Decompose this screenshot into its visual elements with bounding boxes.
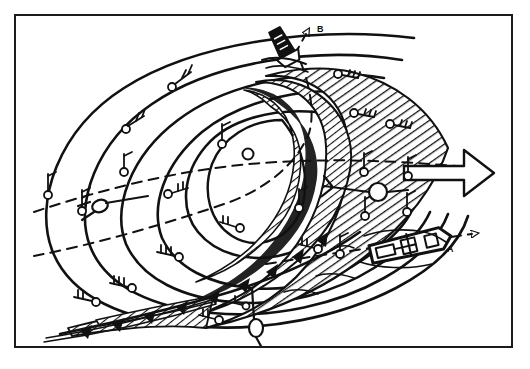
wind-barb xyxy=(164,182,188,198)
aircraft-symbol xyxy=(78,196,148,220)
aircraft-symbol xyxy=(249,288,263,346)
weather-chart-figure: B A xyxy=(0,0,530,369)
wind-barb xyxy=(218,122,230,148)
low-centre-station xyxy=(243,149,254,160)
wind-barb xyxy=(110,276,136,292)
occluded-precipitation-band xyxy=(192,69,448,328)
ship-track-b-label: B xyxy=(317,24,324,34)
chart-frame: B A xyxy=(14,14,513,348)
wind-barb xyxy=(120,152,132,176)
synoptic-chart-drawing xyxy=(16,16,511,346)
ship-track-a-label: A xyxy=(447,244,454,254)
